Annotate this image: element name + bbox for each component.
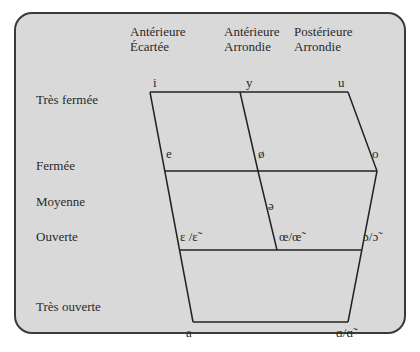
col-header-line1: Postérieure	[294, 24, 352, 39]
vowel-oe: œ/œ̃	[279, 230, 301, 244]
col-header-line2: Écartée	[130, 39, 186, 54]
left-edge	[150, 92, 193, 322]
row-label-moyenne: Moyenne	[36, 194, 85, 209]
row-label-tres-ouverte: Très ouverte	[36, 299, 101, 314]
vowel-open-o: ɔ/ɔ̃	[363, 230, 378, 244]
row-label-ouverte: Ouverte	[36, 229, 78, 244]
vowel-e: e	[166, 147, 172, 161]
vowel-u: u	[338, 76, 345, 90]
row-label-tres-fermee: Très fermée	[36, 92, 98, 107]
vowel-alpha: ɑ/ɑ̃	[336, 326, 353, 340]
vowel-i: i	[153, 76, 157, 90]
col-header-line1: Antérieure	[130, 24, 186, 39]
right-edge	[348, 92, 377, 322]
vowel-open-e: ɛ /ɛ̃	[180, 230, 198, 244]
vowel-o: o	[372, 147, 379, 161]
vowel-schwa: ə	[268, 199, 274, 213]
col-header-line2: Arrondie	[224, 39, 280, 54]
col-header-line1: Antérieure	[224, 24, 280, 39]
row-label-fermee: Fermée	[36, 158, 75, 173]
col-header-anterieure-arrondie: Antérieure Arrondie	[224, 24, 280, 54]
col-header-line2: Arrondie	[294, 39, 352, 54]
vowel-a: a	[186, 326, 192, 340]
vowel-o-slash: ø	[258, 147, 265, 161]
col-header-posterieure-arrondie: Postérieure Arrondie	[294, 24, 352, 54]
vowel-y: y	[246, 76, 253, 90]
col-header-anterieure-ecartee: Antérieure Écartée	[130, 24, 186, 54]
